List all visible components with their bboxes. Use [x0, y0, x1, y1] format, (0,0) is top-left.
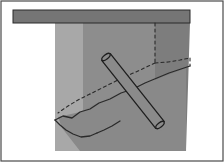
surface-layer-band: [13, 10, 190, 23]
figure-canvas: [0, 0, 224, 162]
cross-section-sketch: [0, 0, 224, 162]
